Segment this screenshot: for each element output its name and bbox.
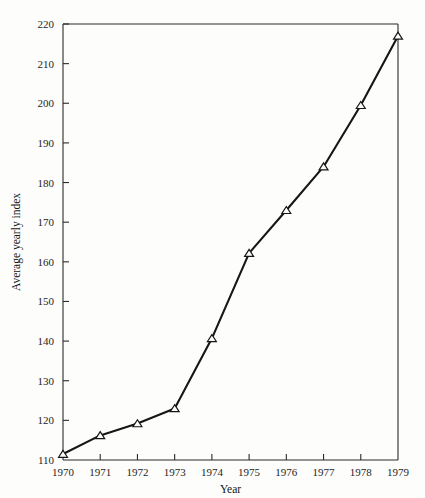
y-axis-tick-label: 130 (38, 375, 55, 387)
data-point-marker (207, 335, 216, 342)
y-axis-tick-label: 190 (38, 137, 55, 149)
data-point-marker (170, 405, 179, 412)
y-axis-tick-label: 180 (38, 177, 55, 189)
data-point-marker (319, 163, 328, 170)
y-axis-tick-label: 170 (38, 216, 55, 228)
chart-canvas: 110120130140150160170180190200210220 197… (0, 0, 425, 498)
y-axis-tick-label: 140 (38, 335, 55, 347)
x-axis-tick-group: 1970197119721973197419751976197719781979 (52, 454, 410, 478)
y-axis-tick-label: 200 (38, 97, 55, 109)
line-chart-figure: 110120130140150160170180190200210220 197… (0, 0, 425, 498)
x-axis-tick-label: 1970 (52, 466, 75, 478)
x-axis-tick-label: 1977 (313, 466, 336, 478)
x-axis-tick-label: 1978 (350, 466, 373, 478)
x-axis-tick-label: 1971 (89, 466, 111, 478)
data-point-marker (394, 32, 403, 39)
x-axis-tick-label: 1972 (126, 466, 148, 478)
x-axis-tick-label: 1976 (275, 466, 298, 478)
x-axis-tick-label: 1975 (238, 466, 261, 478)
x-axis-tick-label: 1974 (201, 466, 224, 478)
data-point-marker (356, 102, 365, 109)
y-axis-tick-label: 160 (38, 256, 55, 268)
x-axis-title: Year (220, 483, 241, 495)
y-axis-tick-label: 210 (38, 58, 55, 70)
x-axis-tick-label: 1973 (164, 466, 187, 478)
y-axis-tick-label: 120 (38, 414, 55, 426)
x-axis-tick-label: 1979 (387, 466, 410, 478)
y-axis-tick-label: 150 (38, 295, 55, 307)
y-axis-title: Average yearly index (10, 193, 23, 291)
y-axis-tick-label: 110 (38, 454, 55, 466)
data-point-marker-group (59, 32, 403, 457)
y-axis-tick-group: 110120130140150160170180190200210220 (38, 18, 70, 466)
y-axis-tick-label: 220 (38, 18, 55, 30)
data-series-line (63, 36, 398, 454)
